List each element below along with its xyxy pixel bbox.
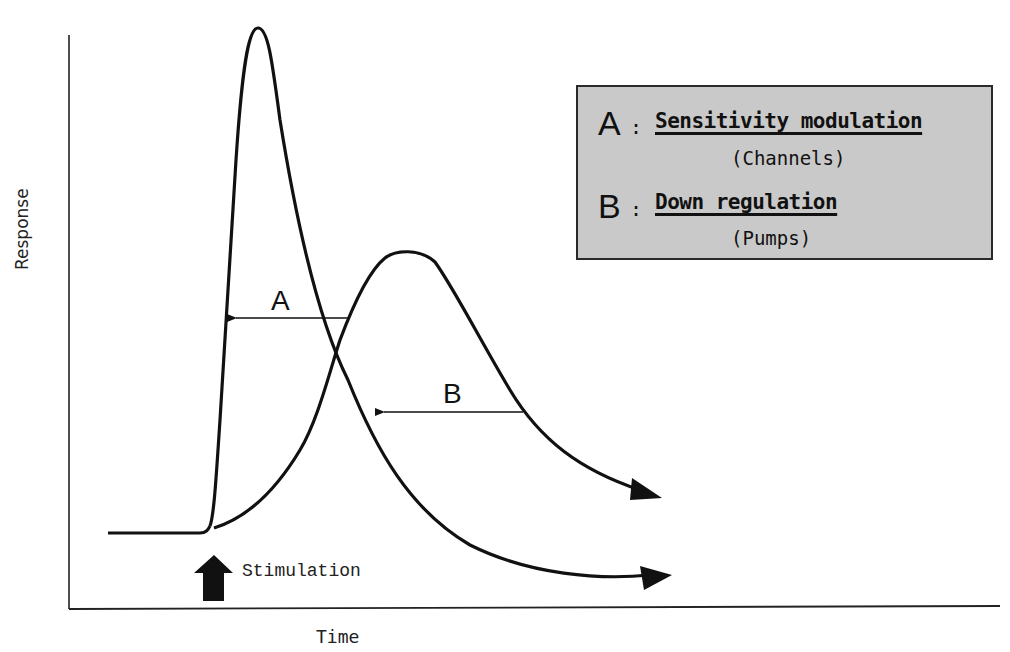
x-axis <box>69 606 1000 609</box>
legend-separator-a: : <box>630 115 642 139</box>
baseline-curve <box>108 526 210 533</box>
legend-box: A : Sensitivity modulation (Channels) B … <box>576 85 993 260</box>
legend-letter-b: B <box>598 187 621 226</box>
curve-a-arrowhead <box>640 566 672 590</box>
legend-title-a: Sensitivity modulation <box>655 109 922 133</box>
legend-subtitle-a: (Channels) <box>731 147 845 169</box>
legend-letter-a: A <box>598 104 621 143</box>
legend-title-b: Down regulation <box>655 190 837 214</box>
curve-b-arrowhead <box>630 478 662 500</box>
curve-label-b: B <box>443 378 462 410</box>
legend-separator-b: : <box>630 197 642 221</box>
legend-subtitle-b: (Pumps) <box>731 227 811 249</box>
curve-label-a: A <box>271 285 290 317</box>
x-axis-label: Time <box>316 626 359 647</box>
up-arrow-icon <box>194 555 233 601</box>
stimulation-label: Stimulation <box>242 561 361 581</box>
y-axis-label: Response <box>12 150 32 270</box>
